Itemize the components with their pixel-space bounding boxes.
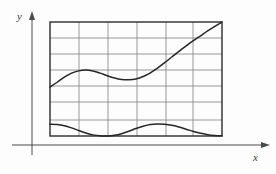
x-axis-arrowhead: [261, 142, 270, 148]
y-axis-arrowhead: [29, 11, 35, 20]
y-axis-label: y: [17, 11, 22, 22]
bottom-wave-curve: [50, 124, 222, 136]
plot-canvas: [0, 0, 276, 174]
rising-wavy-curve: [50, 22, 222, 87]
data-curves-group: [50, 22, 222, 136]
figure-container: y x: [0, 0, 276, 174]
x-axis-label: x: [253, 152, 258, 163]
